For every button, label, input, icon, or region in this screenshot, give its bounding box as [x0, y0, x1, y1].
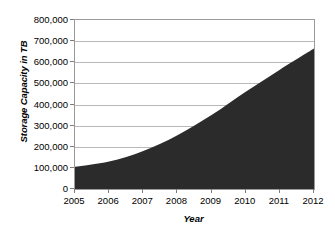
- x-axis-tick-label: 2005: [63, 195, 84, 206]
- area-series-path: [75, 49, 314, 189]
- y-axis-tick-mark: [70, 82, 74, 83]
- y-axis-tick-mark: [70, 40, 74, 41]
- plot-area: [74, 19, 315, 190]
- y-axis-tick-label: 100,000: [22, 161, 68, 172]
- x-axis-tick-label: 2007: [132, 195, 153, 206]
- x-axis-tick-label: 2011: [269, 195, 289, 206]
- y-axis-tick-mark: [70, 125, 74, 126]
- area-series: [75, 20, 314, 189]
- y-axis-tick-mark: [70, 167, 74, 168]
- x-axis-tick-mark: [176, 189, 177, 193]
- y-axis-tick-label: 300,000: [22, 119, 68, 130]
- y-axis-tick-mark: [70, 146, 74, 147]
- y-axis-tick-mark: [70, 19, 74, 20]
- x-axis-tick-label: 2006: [98, 195, 119, 206]
- y-axis-tick-label: 200,000: [22, 140, 68, 151]
- y-axis-tick-label: 500,000: [22, 77, 68, 88]
- y-axis-tick-label: 800,000: [22, 14, 68, 25]
- x-axis-tick-mark: [211, 189, 212, 193]
- y-axis-tick-mark: [70, 104, 74, 105]
- y-axis-tick-mark: [70, 61, 74, 62]
- x-axis-title: Year: [74, 213, 313, 224]
- y-axis-tick-label: 600,000: [22, 56, 68, 67]
- x-axis-tick-mark: [279, 189, 280, 193]
- x-axis-tick-mark: [245, 189, 246, 193]
- y-axis-tick-label: 0: [22, 183, 68, 194]
- y-axis-tick-label: 400,000: [22, 98, 68, 109]
- chart-screenshot: Storage Capacity in TB 0100,000200,00030…: [0, 0, 335, 234]
- y-axis-tick-label: 700,000: [22, 35, 68, 46]
- x-axis-tick-label: 2008: [166, 195, 187, 206]
- x-axis-tick-mark: [313, 189, 314, 193]
- x-axis-tick-label: 2010: [234, 195, 255, 206]
- x-axis-tick-label: 2012: [302, 195, 323, 206]
- x-axis-tick-mark: [142, 189, 143, 193]
- y-axis-tick-labels: 0100,000200,000300,000400,000500,000600,…: [22, 19, 68, 188]
- x-axis-tick-mark: [74, 189, 75, 193]
- x-axis-tick-label: 2009: [200, 195, 221, 206]
- x-axis-tick-mark: [108, 189, 109, 193]
